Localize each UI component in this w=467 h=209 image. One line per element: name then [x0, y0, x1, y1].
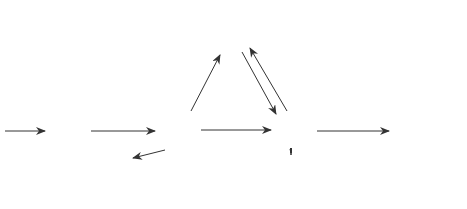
transition-diagram	[0, 0, 467, 209]
edge-2-5	[191, 55, 220, 111]
edge-2-6	[133, 150, 165, 158]
edge-3-5	[250, 48, 287, 111]
